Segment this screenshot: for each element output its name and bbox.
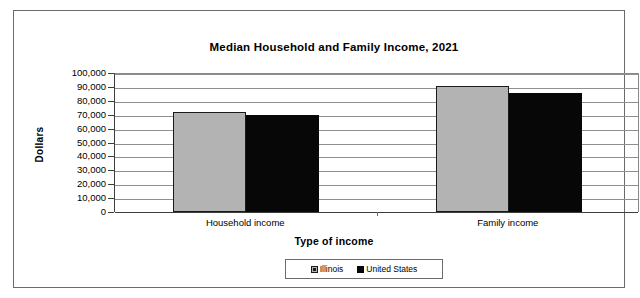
bar-family-income-united-states	[509, 93, 582, 212]
y-axis-tick-label: 0	[101, 207, 106, 216]
y-axis-tick-label: 80,000	[77, 96, 106, 105]
legend-label-united-states: United States	[366, 265, 417, 274]
y-axis-tick-label: 30,000	[77, 165, 106, 174]
x-axis-tick	[377, 212, 378, 216]
legend-swatch-illinois-icon	[311, 266, 318, 273]
bar-household-income-illinois	[173, 112, 246, 212]
chart-title: Median Household and Family Income, 2021	[14, 41, 640, 53]
chart-legend: Illinois United States	[285, 259, 443, 279]
y-axis-tick-label: 10,000	[77, 193, 106, 202]
y-axis-tick-label: 50,000	[77, 138, 106, 147]
chart-frame: Median Household and Family Income, 2021…	[13, 10, 625, 288]
gridline	[115, 88, 638, 89]
legend-item-illinois: Illinois	[311, 265, 344, 274]
y-axis-tick-label: 20,000	[77, 179, 106, 188]
y-axis-tick-label: 60,000	[77, 124, 106, 133]
y-axis-tick-label: 90,000	[77, 82, 106, 91]
x-axis-category-label: Family income	[448, 217, 568, 228]
y-axis-tick-label: 70,000	[77, 110, 106, 119]
bar-family-income-illinois	[436, 86, 509, 212]
gridline	[115, 74, 638, 75]
legend-swatch-united-states-icon	[357, 266, 364, 273]
x-axis-title: Type of income	[14, 235, 640, 247]
y-axis: 100,00090,00080,00070,00060,00050,00040,…	[14, 73, 114, 212]
y-axis-tick-label: 40,000	[77, 151, 106, 160]
x-axis-category-label: Household income	[185, 217, 305, 228]
y-axis-tick-label: 100,000	[72, 68, 106, 77]
legend-label-illinois: Illinois	[320, 265, 344, 274]
legend-item-united-states: United States	[357, 265, 417, 274]
bar-household-income-united-states	[246, 115, 319, 212]
plot-area	[114, 73, 639, 212]
y-axis-tick	[108, 212, 114, 213]
